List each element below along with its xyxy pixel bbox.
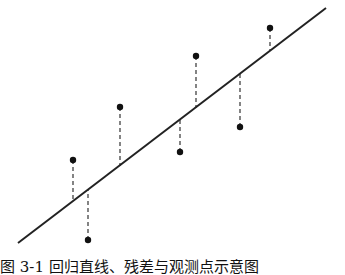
figure-caption: 图 3-1 回归直线、残差与观测点示意图 [0,255,345,275]
regression-line [18,8,326,243]
data-point [267,25,273,31]
data-point [237,124,243,130]
data-point [193,53,199,59]
data-point [85,237,91,243]
data-point [70,157,76,163]
data-point [177,149,183,155]
data-point [117,104,123,110]
